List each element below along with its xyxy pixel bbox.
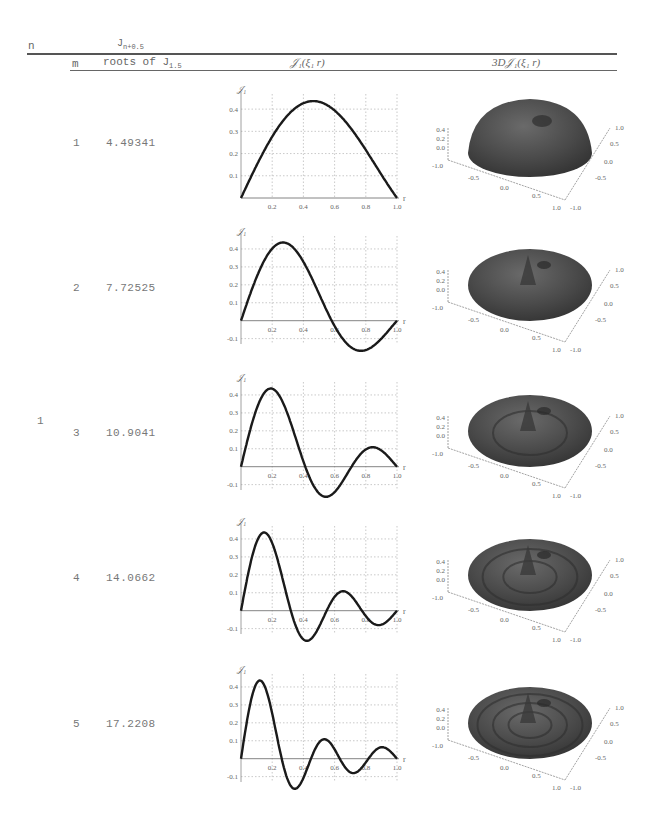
svg-text:0.0: 0.0 [436, 576, 445, 584]
svg-text:0.4: 0.4 [436, 126, 445, 134]
svg-text:𝒥₁: 𝒥₁ [236, 372, 247, 382]
svg-text:0.3: 0.3 [229, 128, 238, 136]
header-roots-sub: 1.5 [169, 62, 182, 70]
header-group-sub: n+0.5 [123, 43, 144, 51]
header-group: Jn+0.5 [117, 38, 144, 51]
header-plot3d: 3D𝒥₁(ξ₁ r) [492, 56, 540, 69]
svg-text:𝒥₁: 𝒥₁ [236, 516, 247, 526]
bessel-2d-plot: 0.20.40.60.81.0-0.10.10.20.30.4𝒥₁r [225, 660, 410, 800]
svg-text:-0.1: -0.1 [227, 335, 239, 343]
svg-text:0.5: 0.5 [532, 480, 541, 488]
x-tick-label: 0.2 [268, 472, 277, 480]
svg-text:-0.5: -0.5 [468, 316, 480, 324]
svg-text:-1.0: -1.0 [570, 204, 582, 212]
svg-text:0.2: 0.2 [436, 277, 445, 285]
bessel-2d-plot: 0.20.40.60.81.0-0.10.10.20.30.4𝒥₁r [225, 368, 410, 508]
svg-text:-0.5: -0.5 [595, 174, 607, 182]
svg-text:0.0: 0.0 [500, 616, 509, 624]
svg-text:0.5: 0.5 [610, 720, 619, 728]
x-tick-label: 0.4 [299, 616, 308, 624]
row-root: 7.72525 [106, 282, 156, 294]
header-rule-thin [70, 70, 617, 71]
bessel-curve [241, 681, 397, 789]
svg-text:0.5: 0.5 [610, 140, 619, 148]
svg-text:0.4: 0.4 [229, 683, 238, 691]
x-tick-label: 0.8 [361, 472, 370, 480]
svg-text:0.0: 0.0 [436, 286, 445, 294]
x-tick-label: 1.0 [393, 472, 402, 480]
svg-text:0.0: 0.0 [436, 432, 445, 440]
svg-text:-0.5: -0.5 [468, 174, 480, 182]
svg-text:0.2: 0.2 [229, 150, 238, 158]
svg-text:0.0: 0.0 [604, 590, 613, 598]
svg-text:0.5: 0.5 [532, 772, 541, 780]
svg-text:1.0: 1.0 [552, 636, 561, 644]
svg-text:0.0: 0.0 [500, 764, 509, 772]
svg-text:-0.5: -0.5 [468, 754, 480, 762]
bessel-curve [241, 243, 397, 351]
svg-text:0.4: 0.4 [229, 535, 238, 543]
svg-text:0.1: 0.1 [229, 299, 238, 307]
header-roots: roots of J1.5 [103, 56, 182, 70]
svg-text:1.0: 1.0 [552, 784, 561, 792]
x-tick-label: 1.0 [393, 326, 402, 334]
bessel-3d-surface-plot: 0.40.20.0-1.0-0.50.00.51.01.00.50.0-0.5-… [420, 520, 640, 650]
svg-text:0.0: 0.0 [604, 300, 613, 308]
svg-text:0.4: 0.4 [436, 558, 445, 566]
svg-text:0.3: 0.3 [229, 553, 238, 561]
header-roots-label: roots of J [103, 56, 169, 68]
svg-text:0.3: 0.3 [229, 409, 238, 417]
svg-text:0.0: 0.0 [436, 144, 445, 152]
bessel-3d-surface-plot: 0.40.20.0-1.0-0.50.00.51.01.00.50.0-0.5-… [420, 668, 640, 798]
row-root: 17.2208 [106, 718, 156, 730]
header-m: m [72, 58, 79, 70]
row-root: 10.9041 [106, 427, 156, 439]
svg-text:0.0: 0.0 [500, 184, 509, 192]
svg-text:0.0: 0.0 [436, 724, 445, 732]
svg-text:0.0: 0.0 [604, 158, 613, 166]
bessel-3d-surface-plot: 0.40.20.0-1.0-0.50.00.51.01.00.50.0-0.5-… [420, 88, 640, 218]
svg-text:0.5: 0.5 [610, 572, 619, 580]
x-tick-label: 0.6 [330, 616, 339, 624]
svg-text:0.2: 0.2 [229, 427, 238, 435]
svg-text:0.1: 0.1 [229, 737, 238, 745]
svg-text:1.0: 1.0 [615, 266, 624, 274]
x-tick-label: 0.8 [361, 326, 370, 334]
svg-text:0.3: 0.3 [229, 263, 238, 271]
svg-text:0.2: 0.2 [436, 135, 445, 143]
svg-text:-1.0: -1.0 [432, 304, 444, 312]
row-m: 4 [73, 572, 80, 584]
svg-text:0.1: 0.1 [229, 589, 238, 597]
svg-text:-0.1: -0.1 [227, 625, 239, 633]
x-tick-label: 0.8 [361, 203, 370, 211]
n-value: 1 [37, 415, 44, 427]
x-tick-label: 1.0 [393, 616, 402, 624]
bessel-2d-plot: 0.20.40.60.81.0-0.10.10.20.30.4𝒥₁r [225, 222, 410, 362]
svg-text:1.0: 1.0 [552, 346, 561, 354]
header-rule-thick [27, 53, 617, 55]
row-m: 2 [73, 282, 80, 294]
svg-text:0.0: 0.0 [604, 446, 613, 454]
svg-text:r: r [403, 317, 406, 326]
svg-text:-0.5: -0.5 [595, 316, 607, 324]
svg-text:-1.0: -1.0 [432, 594, 444, 602]
svg-text:0.5: 0.5 [532, 624, 541, 632]
svg-text:0.4: 0.4 [436, 268, 445, 276]
svg-text:-0.1: -0.1 [227, 481, 239, 489]
svg-text:1.0: 1.0 [552, 204, 561, 212]
svg-text:1.0: 1.0 [615, 704, 624, 712]
row-root: 14.0662 [106, 572, 156, 584]
row-root: 4.49341 [106, 137, 156, 149]
svg-text:0.4: 0.4 [436, 706, 445, 714]
svg-text:1.0: 1.0 [615, 556, 624, 564]
x-tick-label: 1.0 [393, 203, 402, 211]
svg-text:-1.0: -1.0 [432, 450, 444, 458]
svg-text:r: r [403, 755, 406, 764]
svg-text:0.0: 0.0 [500, 326, 509, 334]
bessel-curve [241, 101, 397, 198]
svg-text:0.5: 0.5 [532, 192, 541, 200]
bessel-curve [241, 533, 397, 641]
header-n: n [28, 40, 35, 52]
svg-text:r: r [403, 607, 406, 616]
svg-text:r: r [403, 463, 406, 472]
